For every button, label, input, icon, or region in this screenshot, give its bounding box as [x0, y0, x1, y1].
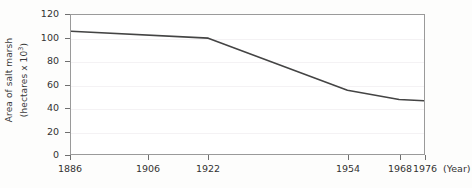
- x-tick-label: 1976: [413, 164, 437, 174]
- x-tick-mark: [400, 155, 401, 160]
- y-axis-title-line2: (hectares x 103): [16, 38, 31, 122]
- chart-figure: Area of salt marsh (hectares x 103) 0204…: [0, 0, 472, 188]
- x-tick-mark: [208, 155, 209, 160]
- y-tick-label: 100: [29, 33, 59, 43]
- y-tick-label: 20: [29, 127, 59, 137]
- y-tick-label: 0: [29, 150, 59, 160]
- x-tick-label: 1906: [136, 164, 160, 174]
- y-axis-title-exponent: 3: [17, 47, 25, 51]
- y-axis-title-line2-prefix: (hectares x 10: [19, 51, 29, 117]
- data-series-line: [71, 15, 424, 154]
- y-tick-label: 40: [29, 103, 59, 113]
- x-tick-mark: [70, 155, 71, 160]
- x-tick-label: 1886: [58, 164, 82, 174]
- y-axis-title-line1: Area of salt marsh: [4, 38, 16, 122]
- x-tick-mark: [425, 155, 426, 160]
- y-tick-label: 80: [29, 56, 59, 66]
- x-tick-label: 1954: [336, 164, 360, 174]
- x-tick-mark: [348, 155, 349, 160]
- x-tick-mark: [148, 155, 149, 160]
- x-axis-unit-label: (Year): [443, 164, 471, 174]
- x-tick-label: 1922: [196, 164, 220, 174]
- y-tick-label: 60: [29, 80, 59, 90]
- x-tick-label: 1968: [388, 164, 412, 174]
- y-tick-label: 120: [29, 9, 59, 19]
- plot-area: [70, 14, 425, 155]
- y-axis-title-line2-suffix: ): [19, 43, 29, 47]
